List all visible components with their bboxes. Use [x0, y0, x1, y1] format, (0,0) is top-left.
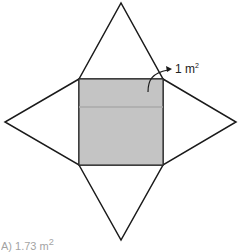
left-triangle	[5, 79, 79, 165]
right-triangle	[163, 79, 236, 165]
answer-option-a: A) 1.73 m2	[1, 237, 54, 252]
base-area-label: 1 m2	[175, 62, 199, 76]
bottom-triangle	[79, 165, 163, 240]
shaded-square-base	[79, 79, 163, 165]
arrowhead-icon	[166, 66, 172, 72]
top-triangle	[79, 3, 163, 79]
